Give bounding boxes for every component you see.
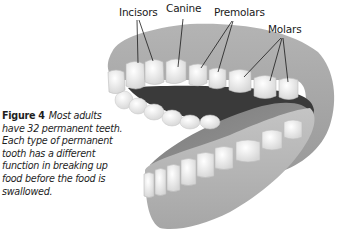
teeth-figure: Incisors Canine Premolars Molars Figure … <box>0 0 345 240</box>
caption-line-6: food before the food is <box>2 173 130 186</box>
caption-line-7: swallowed. <box>2 186 130 199</box>
caption-line-3: Each type of permanent <box>2 135 130 148</box>
figure-caption: Figure 4Most adults have 32 permanent te… <box>2 110 130 198</box>
label-molars: Molars <box>268 23 301 35</box>
caption-line-2: have 32 permanent teeth. <box>2 123 130 136</box>
label-incisors: Incisors <box>119 6 158 18</box>
label-premolars: Premolars <box>214 6 265 18</box>
caption-line-1: Figure 4Most adults <box>2 110 130 123</box>
label-canine: Canine <box>166 2 201 14</box>
figure-number: Figure 4 <box>2 110 45 121</box>
caption-line-5: function in breaking up <box>2 160 130 173</box>
caption-line-4: tooth has a different <box>2 148 130 161</box>
